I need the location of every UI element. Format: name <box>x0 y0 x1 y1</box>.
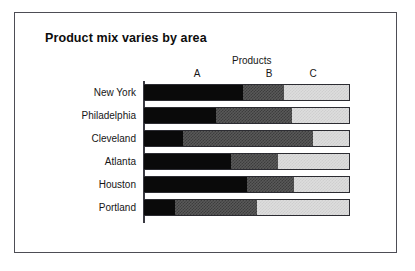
series-label-a: A <box>190 68 204 79</box>
stacked-bar-row <box>144 176 350 193</box>
stacked-bar-row <box>144 199 350 216</box>
bar-segment-c <box>294 176 350 193</box>
stacked-bar-row <box>144 107 350 124</box>
bar-segment-c <box>257 199 350 216</box>
bar-segment-b <box>175 199 257 216</box>
bar-segment-b <box>247 176 294 193</box>
bar-segment-c <box>292 107 350 124</box>
category-label: New York <box>40 87 136 98</box>
bar-segment-a <box>144 84 243 101</box>
bar-segment-a <box>144 107 216 124</box>
stacked-bar-row <box>144 84 350 101</box>
series-label-b: B <box>262 68 276 79</box>
category-label: Houston <box>40 179 136 190</box>
bar-segment-b <box>183 130 313 147</box>
figure-canvas: Product mix varies by area Products A B … <box>0 0 415 271</box>
category-label: Portland <box>40 202 136 213</box>
category-label: Cleveland <box>40 133 136 144</box>
category-label: Atlanta <box>40 156 136 167</box>
bar-segment-a <box>144 176 247 193</box>
stacked-bar-row <box>144 153 350 170</box>
plot-area <box>144 82 350 222</box>
chart-title: Product mix varies by area <box>45 31 207 45</box>
bar-segment-c <box>278 153 350 170</box>
bar-segment-b <box>231 153 278 170</box>
bar-segment-c <box>284 84 350 101</box>
bar-segment-c <box>313 130 350 147</box>
bar-segment-a <box>144 199 175 216</box>
bar-segment-a <box>144 130 183 147</box>
legend-title-products: Products <box>232 55 271 66</box>
series-label-c: C <box>306 68 320 79</box>
category-label: Philadelphia <box>40 110 136 121</box>
stacked-bar-row <box>144 130 350 147</box>
category-axis-labels: New York Philadelphia Cleveland Atlanta … <box>36 82 136 222</box>
bar-segment-b <box>243 84 284 101</box>
bar-segment-a <box>144 153 231 170</box>
bar-segment-b <box>216 107 292 124</box>
